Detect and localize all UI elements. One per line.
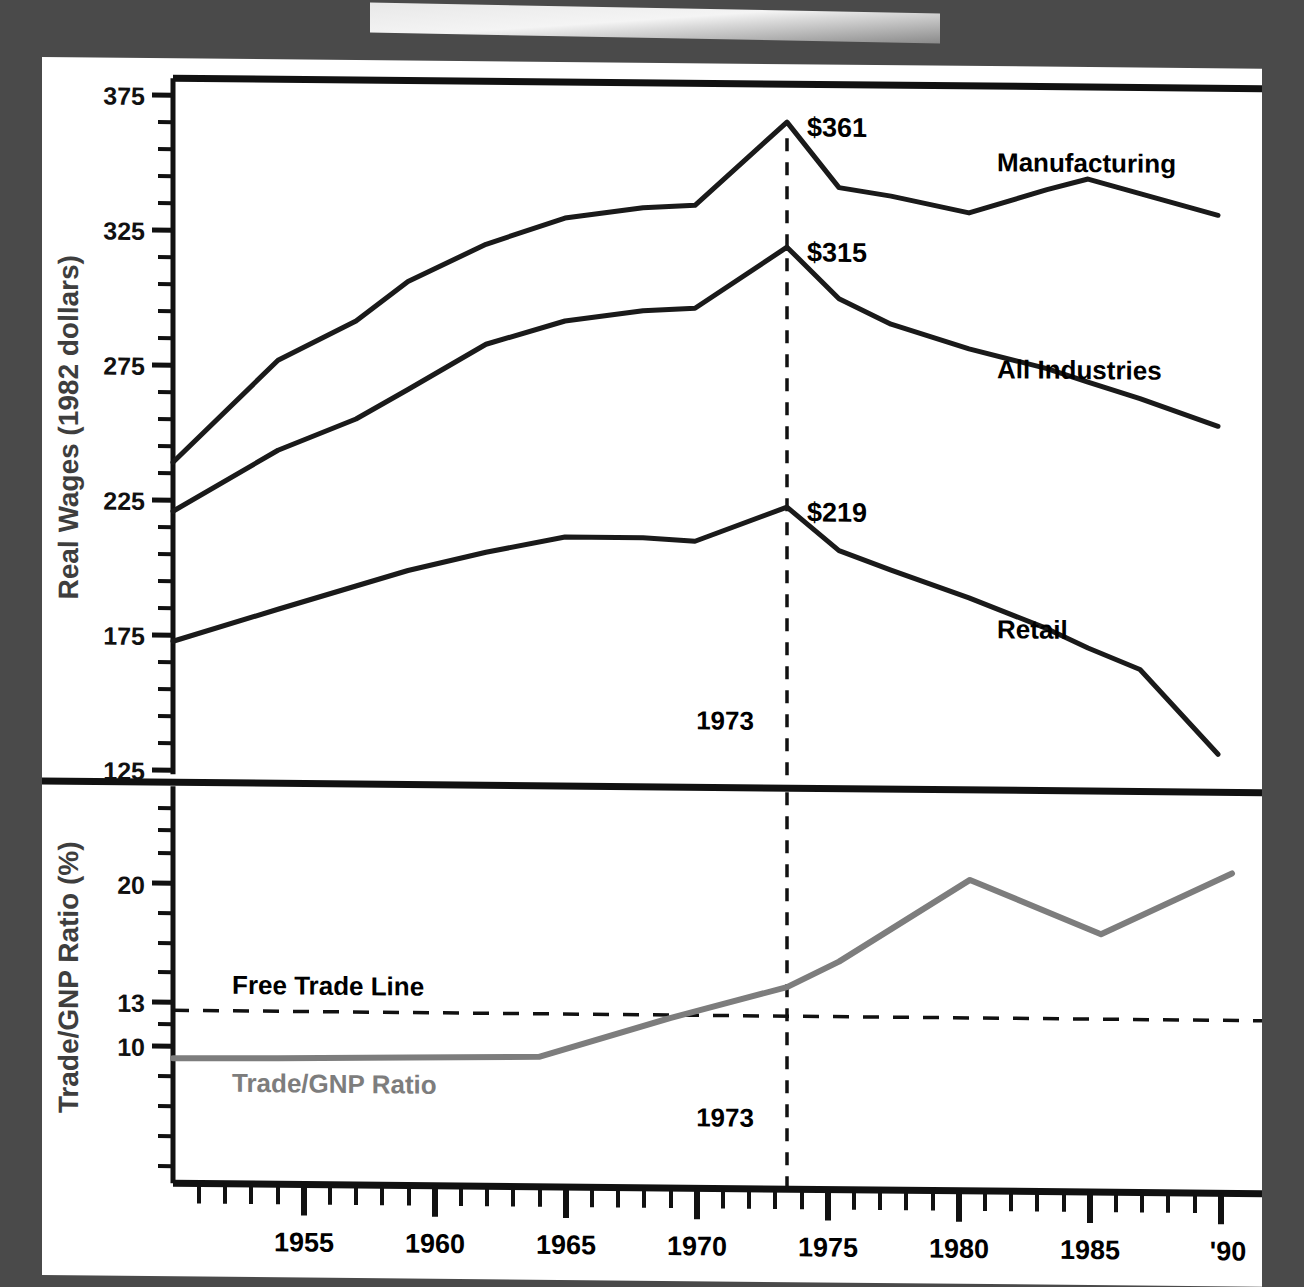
top-border [173, 78, 1262, 88]
label-all-industries: All Industries [997, 354, 1162, 386]
label-retail: Retail [997, 614, 1068, 645]
xtick-1985: 1985 [1060, 1235, 1120, 1266]
top-major-yticks [152, 95, 173, 770]
bottom-year-1973-label: 1973 [696, 1102, 754, 1133]
xtick-1965: 1965 [536, 1230, 596, 1261]
top-ytick-225: 225 [103, 487, 145, 515]
annotation-315: $315 [807, 237, 867, 268]
annotation-219: $219 [807, 497, 867, 528]
xtick-1970: 1970 [667, 1231, 727, 1262]
bottom-major-yticks [152, 883, 173, 1046]
chart-sheet: 375 325 275 225 175 125 Real Wages (1982… [42, 57, 1262, 1287]
series-trade-gnp-ratio [173, 863, 1232, 1068]
label-manufacturing: Manufacturing [997, 147, 1176, 179]
bottom-ytick-13: 13 [117, 989, 145, 1017]
xtick-1975: 1975 [798, 1232, 858, 1263]
top-yaxis-title: Real Wages (1982 dollars) [53, 255, 84, 600]
dual-panel-chart: 375 325 275 225 175 125 Real Wages (1982… [42, 57, 1262, 1287]
bottom-x-axis [173, 1183, 1262, 1193]
label-free-trade-line: Free Trade Line [232, 970, 424, 1002]
bottom-ytick-20: 20 [117, 871, 145, 899]
top-ytick-375: 375 [103, 82, 145, 110]
bottom-ytick-10: 10 [117, 1033, 145, 1061]
top-ytick-325: 325 [103, 217, 145, 245]
top-ytick-275: 275 [103, 352, 145, 380]
free-trade-reference-line [173, 1010, 1262, 1020]
label-trade-gnp-ratio: Trade/GNP Ratio [232, 1068, 437, 1100]
panel-divider [42, 781, 1262, 793]
bottom-panel: 20 13 10 Trade/GNP Ratio (%) Free Trade … [53, 785, 1262, 1267]
xtick-1955: 1955 [274, 1227, 334, 1258]
top-panel: 375 325 275 225 175 125 Real Wages (1982… [53, 77, 1262, 796]
annotation-361: $361 [807, 112, 867, 143]
bottom-yaxis-title: Trade/GNP Ratio (%) [53, 841, 84, 1113]
xtick-1980: 1980 [929, 1234, 989, 1265]
top-ytick-175: 175 [103, 622, 145, 650]
top-year-1973-label: 1973 [696, 705, 754, 736]
xtick-1960: 1960 [405, 1228, 465, 1259]
xtick-1990: '90 [1210, 1236, 1246, 1266]
